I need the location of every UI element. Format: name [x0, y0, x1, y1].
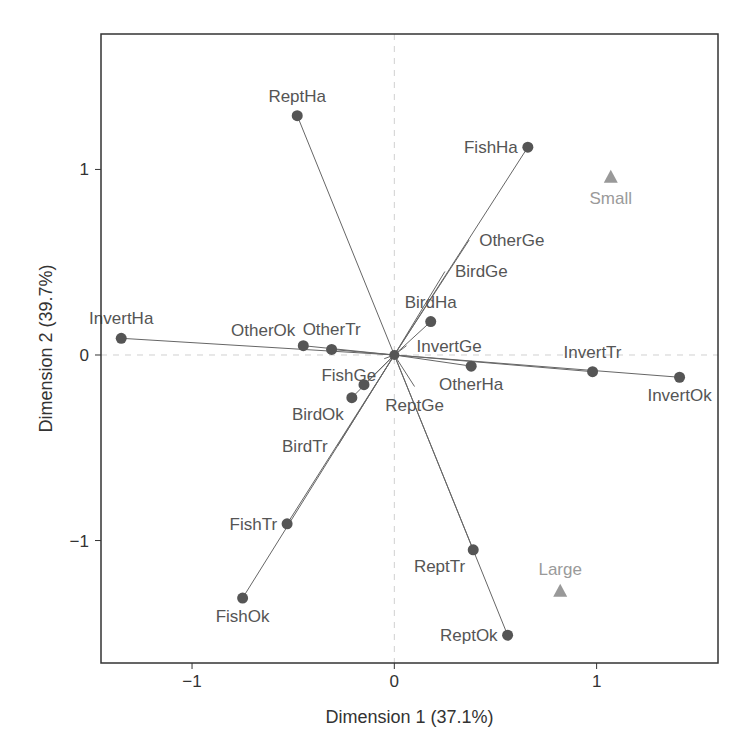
point-otherha [466, 361, 477, 372]
point-reptha [292, 110, 303, 121]
label-othertr: OtherTr [303, 320, 361, 339]
arrow-invertha [121, 338, 394, 355]
reference-lines [101, 34, 718, 663]
point-invertha [116, 333, 127, 344]
label-inverttr: InvertTr [564, 343, 622, 362]
triangle-small [604, 170, 618, 183]
label-birdtr: BirdTr [282, 437, 328, 456]
label-reptok: ReptOk [440, 626, 498, 645]
y-tick-label: −1 [70, 532, 89, 551]
point-othertr [326, 344, 337, 355]
point-fishtr [282, 518, 293, 529]
label-large: Large [538, 560, 581, 579]
label-invertok: InvertOk [647, 386, 712, 405]
label-otherge: OtherGe [479, 231, 544, 250]
label-fishtr: FishTr [230, 515, 278, 534]
point-fishha [522, 142, 533, 153]
label-reptha: ReptHa [268, 87, 326, 106]
label-fishha: FishHa [464, 138, 518, 157]
point-reptok [502, 630, 513, 641]
x-tick-label: 1 [592, 672, 601, 691]
label-repttr: ReptTr [414, 557, 466, 576]
plot-frame [101, 34, 718, 663]
point-fishok [237, 593, 248, 604]
label-otherok: OtherOk [231, 321, 296, 340]
triangle-large [553, 584, 567, 597]
origin-point [389, 350, 399, 360]
point-birdha [425, 316, 436, 327]
point-invertok [674, 372, 685, 383]
arrow-reptge [394, 355, 414, 387]
label-fishok: FishOk [216, 607, 270, 626]
point-otherok [298, 340, 309, 351]
y-tick-label: 1 [80, 160, 89, 179]
label-invertha: InvertHa [89, 309, 154, 328]
point-birdok [346, 392, 357, 403]
x-axis: −101 [182, 663, 601, 691]
x-tick-label: 0 [390, 672, 399, 691]
point-repttr [468, 544, 479, 555]
label-birdha: BirdHa [405, 293, 458, 312]
label-birdok: BirdOk [292, 405, 344, 424]
y-axis: −101 [70, 160, 101, 550]
label-invertge: InvertGe [416, 337, 481, 356]
label-reptge: ReptGe [385, 396, 444, 415]
arrow-fishok [243, 355, 395, 598]
label-fishge: FishGe [321, 366, 376, 385]
label-otherha: OtherHa [439, 375, 504, 394]
x-axis-title: Dimension 1 (37.1%) [325, 707, 493, 727]
x-tick-label: −1 [182, 672, 201, 691]
y-tick-label: 0 [80, 346, 89, 365]
y-axis-title: Dimension 2 (39.7%) [36, 264, 56, 432]
point-inverttr [587, 366, 598, 377]
label-birdge: BirdGe [455, 262, 508, 281]
label-small: Small [590, 189, 633, 208]
biplot-chart: ReptHaFishHaOtherGeBirdGeBirdHaInvertGeI… [0, 0, 752, 755]
arrow-invertok [394, 355, 679, 377]
label-layer: ReptHaFishHaOtherGeBirdGeBirdHaInvertGeI… [89, 87, 712, 646]
arrow-reptha [297, 116, 394, 355]
